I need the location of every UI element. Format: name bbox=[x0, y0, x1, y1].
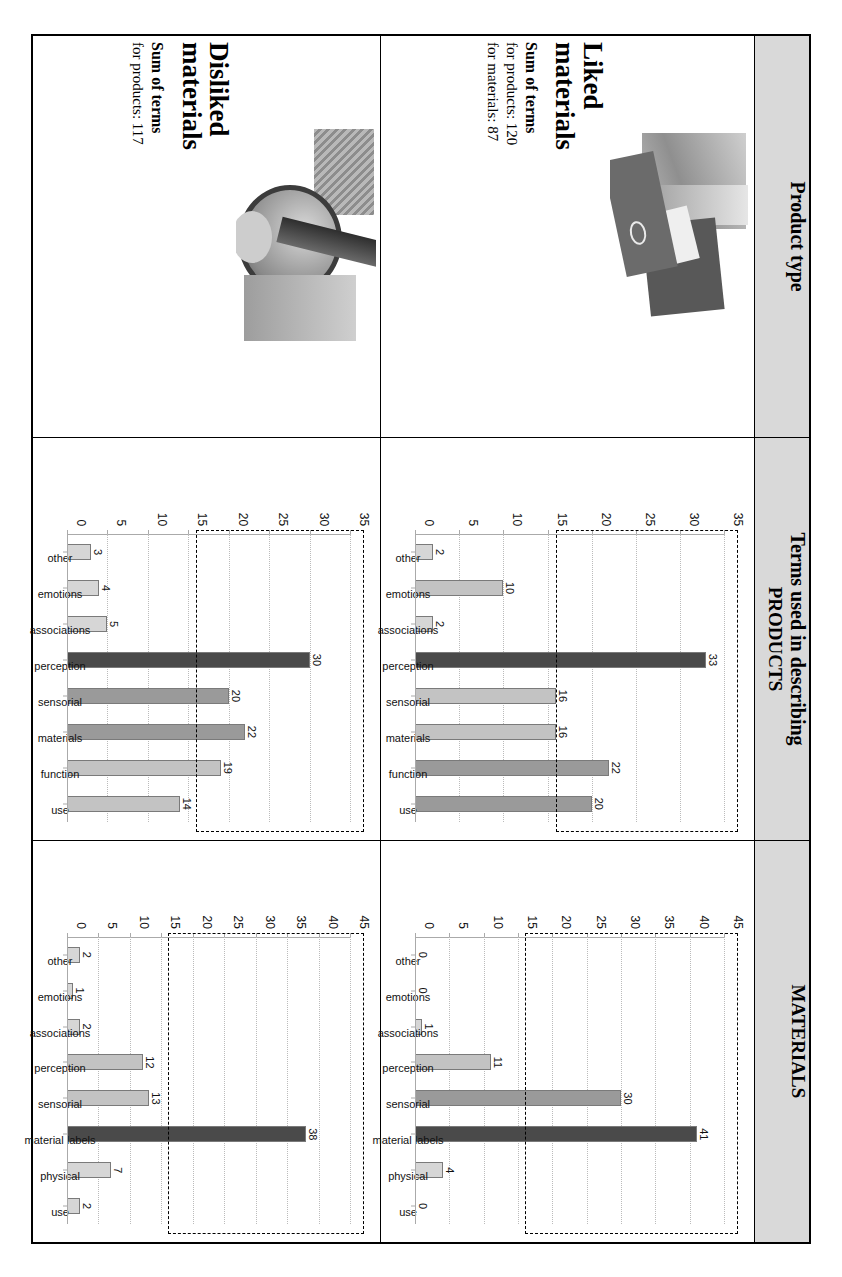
y-tick bbox=[310, 530, 311, 534]
header-product-type: Product type bbox=[755, 35, 811, 438]
category-label: emotions bbox=[38, 588, 83, 600]
gridline bbox=[724, 936, 725, 1223]
y-tick-label: 30 bbox=[628, 882, 642, 928]
bar-column: 2other bbox=[67, 936, 350, 972]
y-tick bbox=[484, 932, 485, 936]
bar-column: 4physical bbox=[415, 1152, 724, 1188]
y-tick-label: 25 bbox=[594, 882, 608, 928]
bar-column: 3other bbox=[67, 534, 350, 570]
table-row: Liked materials Sum of terms for product… bbox=[381, 35, 755, 1243]
bar-column: 30sensorial bbox=[415, 1080, 724, 1116]
bar-column: 30perception bbox=[67, 642, 350, 678]
category-label: associations bbox=[378, 624, 439, 636]
category-label: material labels bbox=[373, 1134, 444, 1146]
y-tick bbox=[193, 932, 194, 936]
bar-value-label: 4 bbox=[444, 1167, 456, 1173]
bar-column: 1emotions bbox=[67, 972, 350, 1008]
header-products-sublabel: PRODUCTS bbox=[764, 438, 786, 840]
y-tick-label: 20 bbox=[559, 882, 573, 928]
bar-value-label: 20 bbox=[230, 689, 242, 701]
bar-column: 13sensorial bbox=[67, 1080, 350, 1116]
bar-column: 10emotions bbox=[415, 570, 724, 606]
chart-cell-liked-products: 051015202530352other10emotions2associati… bbox=[381, 437, 755, 840]
rotated-figure: Product type Terms used in describing PR… bbox=[31, 34, 811, 1244]
bar-value-label: 2 bbox=[434, 549, 446, 555]
liked-materials-photo bbox=[610, 124, 750, 348]
y-tick bbox=[621, 932, 622, 936]
chart-cell-disliked-products: 051015202530353other4emotions5associatio… bbox=[32, 437, 381, 840]
bar-column: 16sensorial bbox=[415, 677, 724, 713]
y-tick-label: 5 bbox=[105, 882, 119, 928]
category-label: emotions bbox=[386, 990, 431, 1002]
sum-of-terms-liked: Sum of terms for products: 120 for mater… bbox=[483, 42, 541, 437]
chart-cell-disliked-materials: 0510152025303540452other1emotions2associ… bbox=[32, 840, 381, 1243]
y-tick bbox=[450, 932, 451, 936]
y-tick-label: 5 bbox=[466, 480, 480, 526]
figure-stage: Product type Terms used in describing PR… bbox=[0, 0, 842, 1277]
bar-column: 19function bbox=[67, 749, 350, 785]
bar-value-label: 0 bbox=[417, 1203, 429, 1209]
y-tick bbox=[107, 530, 108, 534]
category-label: other bbox=[396, 954, 421, 966]
bar-value-label: 30 bbox=[311, 653, 323, 665]
bar: 41 bbox=[415, 1126, 696, 1142]
bar-column: 38material labels bbox=[67, 1116, 350, 1152]
bar-value-label: 14 bbox=[181, 797, 193, 809]
y-tick bbox=[67, 932, 68, 936]
bar-column: 22materials bbox=[67, 713, 350, 749]
y-tick bbox=[724, 932, 725, 936]
plot-area: 0510152025303540450other0emotions1associ… bbox=[415, 936, 724, 1223]
y-tick-label: 45 bbox=[731, 882, 745, 928]
category-axis bbox=[67, 936, 68, 1223]
y-tick-label: 30 bbox=[263, 882, 277, 928]
gridline bbox=[350, 936, 351, 1223]
gridline bbox=[724, 534, 725, 822]
bar-column: 7physical bbox=[67, 1152, 350, 1188]
bar-value-label: 7 bbox=[112, 1167, 124, 1173]
y-tick bbox=[655, 932, 656, 936]
category-label: material labels bbox=[25, 1134, 96, 1146]
bar-column: 4emotions bbox=[67, 570, 350, 606]
bar-chart-liked-products: 051015202530352other10emotions2associati… bbox=[381, 438, 754, 840]
y-tick-label: 25 bbox=[276, 480, 290, 526]
y-tick-label: 45 bbox=[357, 882, 371, 928]
category-label: associations bbox=[30, 624, 91, 636]
category-label: sensorial bbox=[386, 695, 430, 707]
sum-title: Sum of terms bbox=[521, 42, 541, 437]
y-tick-label: 0 bbox=[74, 480, 88, 526]
sum-products: for products: 117 bbox=[128, 42, 147, 437]
y-tick bbox=[287, 932, 288, 936]
bar-value-label: 11 bbox=[492, 1056, 504, 1067]
bar-group: 2other1emotions2associations12perception… bbox=[67, 936, 350, 1223]
y-tick-label: 25 bbox=[643, 480, 657, 526]
bar-value-label: 19 bbox=[222, 761, 234, 773]
bar: 2 bbox=[67, 1198, 80, 1214]
bar-column: 2use bbox=[67, 1188, 350, 1224]
bar-value-label: 20 bbox=[593, 797, 605, 809]
bar-column: 16materials bbox=[415, 713, 724, 749]
category-label: sensorial bbox=[38, 1098, 82, 1110]
y-tick bbox=[161, 932, 162, 936]
category-label: associations bbox=[30, 1026, 91, 1038]
bar-value-label: 16 bbox=[557, 725, 569, 737]
bar-value-label: 2 bbox=[81, 1203, 93, 1209]
bar-column: 33perception bbox=[415, 642, 724, 678]
bar-column: 22function bbox=[415, 749, 724, 785]
bar-value-label: 38 bbox=[307, 1128, 319, 1140]
bar: 14 bbox=[67, 795, 180, 811]
category-axis bbox=[415, 534, 416, 822]
y-tick-label: 20 bbox=[236, 480, 250, 526]
y-tick-label: 35 bbox=[662, 882, 676, 928]
category-label: materials bbox=[38, 731, 83, 743]
row-title-liked: Liked materials bbox=[551, 42, 606, 437]
y-tick-label: 35 bbox=[731, 480, 745, 526]
bar-value-label: 41 bbox=[698, 1128, 710, 1140]
sum-of-terms-disliked: Sum of terms for products: 117 bbox=[128, 42, 167, 437]
y-tick-label: 5 bbox=[457, 882, 471, 928]
bar-value-label: 10 bbox=[504, 581, 516, 593]
y-tick-label: 10 bbox=[491, 882, 505, 928]
bar: 20 bbox=[415, 795, 591, 811]
bar-value-label: 2 bbox=[81, 951, 93, 957]
y-tick bbox=[67, 530, 68, 534]
category-label: physical bbox=[40, 1170, 80, 1182]
